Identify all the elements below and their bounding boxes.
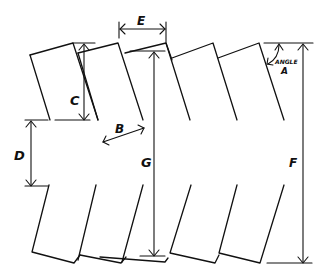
slat-2-left: [78, 53, 98, 120]
svg-text:F: F: [289, 156, 298, 170]
slat-b5: [219, 185, 284, 263]
svg-text:C: C: [70, 93, 80, 108]
dimension-e: E: [119, 14, 166, 42]
slat-diagram: C D B E G F: [0, 0, 326, 278]
dimension-b: B: [103, 122, 144, 145]
angle-a: ANGLE A: [267, 44, 298, 76]
dimension-f: F: [264, 43, 313, 263]
slat-3-right: [166, 43, 190, 120]
dimension-c: C: [55, 43, 95, 120]
slat-b2-left: [78, 185, 96, 260]
slat-2-top: [78, 43, 143, 120]
slat-1-left: [30, 55, 50, 120]
svg-text:ANGLE: ANGLE: [274, 58, 298, 65]
svg-text:E: E: [137, 14, 146, 28]
dimension-g: G: [130, 51, 165, 256]
slat-b4: [170, 185, 219, 263]
svg-text:B: B: [115, 122, 124, 136]
dimension-d: D: [14, 120, 48, 186]
slat-b3-left: [122, 185, 143, 262]
top-slats: [30, 43, 284, 120]
slat-5: [218, 43, 284, 120]
slat-1-top: [30, 43, 98, 120]
svg-text:G: G: [141, 155, 152, 170]
svg-text:D: D: [14, 148, 25, 163]
svg-text:A: A: [280, 66, 288, 76]
slat-b1: [32, 185, 80, 263]
